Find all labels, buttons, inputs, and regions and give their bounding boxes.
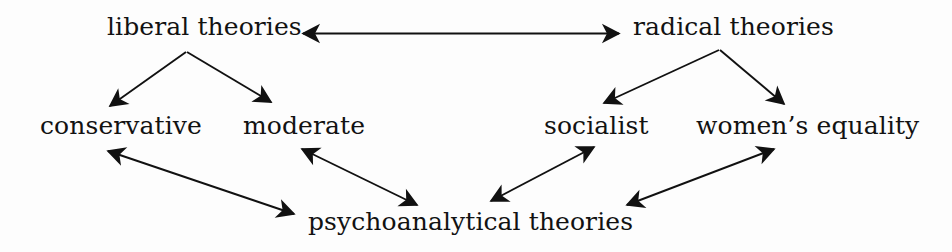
edge-liberal-moderate	[187, 52, 271, 102]
edge-liberal-conservative	[110, 52, 186, 106]
node-conservative: conservative	[40, 113, 202, 138]
edge-radical-socialist	[604, 50, 719, 103]
edge-women-psychoanalytical	[627, 149, 774, 205]
edge-conservative-psychoanalytical	[108, 151, 294, 214]
node-psychoanalytical-theories: psychoanalytical theories	[308, 209, 633, 234]
edge-radical-women	[720, 50, 784, 104]
node-womens-equality: women’s equality	[696, 113, 919, 138]
node-moderate: moderate	[243, 113, 365, 138]
node-socialist: socialist	[544, 113, 649, 138]
node-liberal-theories: liberal theories	[107, 14, 302, 39]
edge-moderate-psychoanalytical	[302, 149, 417, 205]
edge-socialist-psychoanalytical	[491, 147, 594, 201]
diagram-canvas: radical theories --> psychoanalytical th…	[0, 0, 952, 252]
node-radical-theories: radical theories	[633, 14, 834, 39]
